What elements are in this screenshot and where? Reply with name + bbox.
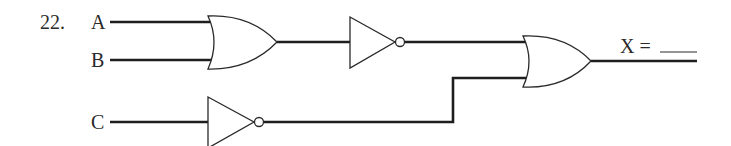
not-gate-2 xyxy=(208,97,254,146)
output-label-x: X = xyxy=(620,35,651,57)
input-label-a: A xyxy=(91,11,106,33)
logic-circuit-diagram: 22. A B C X = xyxy=(0,0,731,146)
wire-not2-to-or2 xyxy=(264,78,528,122)
input-label-c: C xyxy=(91,111,104,133)
problem-number: 22. xyxy=(40,11,65,33)
or-gate-1 xyxy=(208,16,277,69)
or-gate-2 xyxy=(523,36,591,87)
input-label-b: B xyxy=(91,49,104,71)
not-gate-1-bubble xyxy=(396,38,405,47)
not-gate-2-bubble xyxy=(255,118,264,127)
not-gate-1 xyxy=(350,17,395,68)
